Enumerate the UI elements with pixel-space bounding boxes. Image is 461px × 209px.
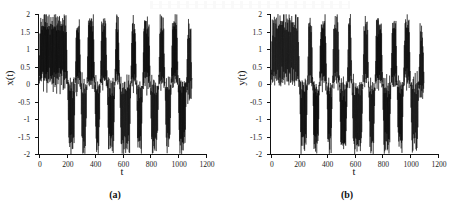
x-tick-label-b-2: 400: [322, 161, 333, 169]
y-tick-label-a-6: -1: [24, 116, 30, 124]
x-tick-b-2: 400: [327, 154, 328, 158]
timeseries-plot-b: [271, 14, 438, 154]
y-tick-label-b-7: -1.5: [250, 134, 262, 142]
y-tick-b-0: 2: [267, 14, 271, 15]
plot-area-b: 2 1.5 1 0.5 0 -0.5 -1 -1.5 -2 0 200 400 …: [270, 14, 438, 155]
x-tick-b-1: 200: [299, 154, 300, 158]
x-tick-label-b-6: 1200: [431, 161, 446, 169]
x-tick-label-a-0: 0: [38, 161, 42, 169]
y-tick-label-a-1: 1.5: [21, 29, 31, 37]
x-tick-label-a-4: 800: [146, 161, 157, 169]
y-tick-b-3: 0.5: [267, 67, 271, 68]
y-tick-label-a-4: 0: [26, 81, 30, 89]
x-tick-label-b-0: 0: [270, 161, 274, 169]
x-tick-label-a-2: 400: [90, 161, 101, 169]
y-tick-label-b-2: 1: [258, 46, 262, 54]
panel-caption-a: (a): [109, 189, 121, 200]
y-tick-a-0: 2: [35, 14, 39, 15]
y-tick-label-a-2: 1: [26, 46, 30, 54]
plot-area-a: 2 1.5 1 0.5 0 -0.5 -1 -1.5 -2 0 200 400 …: [38, 14, 206, 155]
y-tick-b-5: -0.5: [267, 102, 271, 103]
x-tick-label-b-5: 1000: [404, 161, 419, 169]
x-tick-label-a-5: 1000: [172, 161, 187, 169]
x-tick-b-3: 600: [355, 154, 356, 158]
panel-b: y(t) 2 1.5 1 0.5 0 -0.5 -1 -1.5 -2 0 200…: [230, 0, 461, 209]
y-tick-a-2: 1: [35, 49, 39, 50]
y-tick-a-3: 0.5: [35, 67, 39, 68]
x-tick-b-0: 0: [271, 154, 272, 158]
x-tick-a-4: 800: [150, 154, 151, 158]
figure-two-panel-timeseries: x(t) 2 1.5 1 0.5 0 -0.5 -1 -1.5 -2 0 200…: [0, 0, 461, 209]
x-tick-a-2: 400: [95, 154, 96, 158]
x-tick-a-1: 200: [67, 154, 68, 158]
y-tick-label-b-1: 1.5: [253, 29, 263, 37]
x-tick-label-b-1: 200: [294, 161, 305, 169]
y-axis-title-a: x(t): [4, 70, 15, 85]
y-tick-a-6: -1: [35, 119, 39, 120]
y-tick-label-b-6: -1: [256, 116, 262, 124]
y-tick-label-a-3: 0.5: [21, 64, 31, 72]
x-tick-a-3: 600: [123, 154, 124, 158]
x-tick-b-6: 1200: [438, 154, 439, 158]
y-tick-b-6: -1: [267, 119, 271, 120]
x-tick-a-5: 1000: [178, 154, 179, 158]
panel-caption-b: (b): [341, 189, 353, 200]
y-tick-a-1: 1.5: [35, 32, 39, 33]
x-tick-label-a-6: 1200: [199, 161, 214, 169]
y-tick-a-4: 0: [35, 84, 39, 85]
x-tick-label-a-1: 200: [62, 161, 73, 169]
x-tick-b-5: 1000: [410, 154, 411, 158]
x-tick-a-0: 0: [39, 154, 40, 158]
x-tick-b-4: 800: [382, 154, 383, 158]
y-tick-label-b-0: 2: [258, 11, 262, 19]
y-tick-a-5: -0.5: [35, 102, 39, 103]
y-tick-label-b-8: -2: [256, 151, 262, 159]
y-tick-label-a-0: 2: [26, 11, 30, 19]
x-tick-label-b-4: 800: [378, 161, 389, 169]
x-axis-title-a: t: [121, 166, 124, 177]
y-tick-label-b-5: -0.5: [250, 99, 262, 107]
y-axis-title-b: y(t): [236, 70, 247, 85]
y-tick-label-b-4: 0: [258, 81, 262, 89]
y-tick-label-b-3: 0.5: [253, 64, 263, 72]
y-tick-label-a-8: -2: [24, 151, 30, 159]
timeseries-plot-a: [39, 14, 206, 154]
panel-a: x(t) 2 1.5 1 0.5 0 -0.5 -1 -1.5 -2 0 200…: [0, 0, 230, 209]
y-tick-a-7: -1.5: [35, 137, 39, 138]
y-tick-b-7: -1.5: [267, 137, 271, 138]
y-tick-b-2: 1: [267, 49, 271, 50]
x-tick-a-6: 1200: [206, 154, 207, 158]
y-tick-b-1: 1.5: [267, 32, 271, 33]
y-tick-label-a-7: -1.5: [18, 134, 30, 142]
y-tick-b-4: 0: [267, 84, 271, 85]
x-axis-title-b: t: [353, 166, 356, 177]
y-tick-label-a-5: -0.5: [18, 99, 30, 107]
